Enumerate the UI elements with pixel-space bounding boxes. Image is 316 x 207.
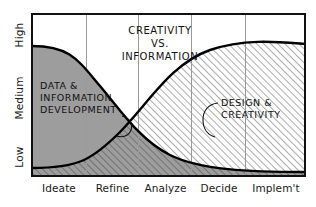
right-annotation-line-2: CREATIVITY xyxy=(221,109,281,121)
chart-title-line-2: VS. xyxy=(108,37,212,50)
y-tick-label-high: High xyxy=(13,13,25,57)
chart-title-line-1: CREATIVITY xyxy=(108,24,212,37)
x-tick-label-decide: Decide xyxy=(192,182,246,194)
x-tick-label-implement: Implem't xyxy=(246,182,306,194)
x-tick-label-ideate: Ideate xyxy=(32,182,86,194)
chart-figure: High Medium Low Ideate Refine Analyze De… xyxy=(0,0,316,207)
left-annotation-line-1: DATA & xyxy=(40,80,78,92)
x-tick-label-refine: Refine xyxy=(86,182,139,194)
y-tick-label-low: Low xyxy=(13,132,25,182)
left-annotation-line-2: INFORMATION xyxy=(40,92,112,104)
y-tick-label-medium: Medium xyxy=(13,68,25,128)
left-annotation-line-3: DEVELOPMENT xyxy=(40,104,117,116)
chart-title-line-3: INFORMATION xyxy=(104,50,216,63)
right-annotation-line-1: DESIGN & xyxy=(221,97,272,109)
x-tick-label-analyze: Analyze xyxy=(139,182,192,194)
